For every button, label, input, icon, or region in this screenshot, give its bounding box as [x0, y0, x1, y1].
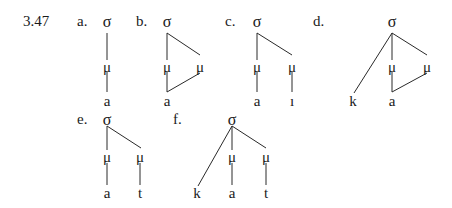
- segment-node: ı: [290, 94, 294, 109]
- mora-node: μ: [103, 150, 111, 165]
- association-line: [392, 73, 427, 92]
- segment-node: a: [104, 186, 111, 201]
- diagram-label: c.: [225, 14, 235, 29]
- sigma-node: σ: [228, 112, 237, 128]
- example-number: 3.47: [23, 14, 49, 29]
- mora-node: μ: [163, 60, 171, 75]
- segment-node: t: [264, 186, 268, 201]
- syllable-structure-figure: 3.47 a.σμab.σμμac.σμμaıd.σμμkae.σμμatf.σ…: [0, 0, 452, 208]
- sigma-node: σ: [103, 112, 112, 128]
- mora-node: μ: [288, 60, 296, 75]
- diagram-label: a.: [77, 14, 87, 29]
- mora-node: μ: [228, 150, 236, 165]
- sigma-node: σ: [163, 14, 172, 30]
- association-line: [232, 126, 266, 148]
- mora-node: μ: [103, 60, 111, 75]
- segment-node: k: [349, 94, 357, 109]
- association-line: [107, 126, 141, 148]
- sigma-node: σ: [103, 14, 112, 30]
- association-line: [257, 33, 292, 55]
- association-line: [167, 73, 200, 92]
- mora-node: μ: [196, 60, 204, 75]
- association-line: [198, 126, 232, 186]
- segment-node: a: [104, 94, 111, 109]
- diagram-label: f.: [173, 112, 182, 127]
- mora-node: μ: [136, 150, 144, 165]
- sigma-node: σ: [253, 14, 262, 30]
- segment-node: a: [254, 94, 261, 109]
- segment-node: a: [164, 94, 171, 109]
- mora-node: μ: [253, 60, 261, 75]
- segment-node: a: [229, 186, 236, 201]
- sigma-node: σ: [388, 14, 397, 30]
- association-lines: [0, 0, 452, 208]
- mora-node: μ: [423, 60, 431, 75]
- diagram-label: e.: [77, 112, 87, 127]
- diagram-c-lines: [257, 33, 292, 92]
- diagram-label: d.: [313, 14, 324, 29]
- association-line: [167, 33, 200, 55]
- segment-node: t: [138, 186, 142, 201]
- segment-node: k: [193, 186, 201, 201]
- mora-node: μ: [262, 150, 270, 165]
- association-line: [392, 33, 427, 55]
- segment-node: a: [389, 94, 396, 109]
- diagram-label: b.: [136, 14, 147, 29]
- association-line: [354, 33, 392, 93]
- mora-node: μ: [388, 60, 396, 75]
